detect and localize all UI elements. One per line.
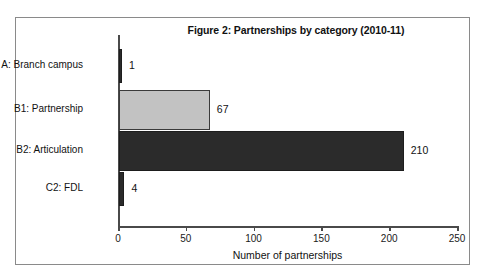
x-tick-label: 150 [313,233,330,244]
bar-row[interactable]: 1 [119,49,172,83]
bar-value-label: 1 [129,59,135,71]
bar-value-label: 67 [217,103,229,115]
x-tick-label: 50 [180,233,191,244]
x-tick-mark [254,226,256,231]
bar-3[interactable] [119,131,404,171]
bar-2[interactable] [119,90,210,130]
x-tick-mark [389,226,391,231]
category-label: C2: FDL [46,182,83,193]
bar-row[interactable]: 210 [119,131,454,171]
category-label: A: Branch campus [1,59,83,70]
bar-value-label: 210 [411,144,429,156]
category-label: B2: Articulation [16,144,83,155]
plot-area: 050100150200250 1672104 A: Branch campus… [118,35,457,226]
bar-4[interactable] [119,172,124,206]
x-tick-label: 100 [245,233,262,244]
x-tick-label: 200 [381,233,398,244]
x-tick-label: 0 [115,233,121,244]
x-tick-mark [457,226,459,231]
x-tick-mark [321,226,323,231]
bar-value-label: 4 [131,182,137,194]
x-tick-label: 250 [449,233,466,244]
x-tick-mark [186,226,188,231]
x-tick-mark [118,226,120,231]
category-label: B1: Partnership [14,103,83,114]
bar-row[interactable]: 4 [119,172,174,206]
x-axis-line [118,226,457,228]
x-axis-title: Number of partnerships [118,249,457,261]
figure-frame: Figure 2: Partnerships by category (2010… [15,17,470,265]
bar-row[interactable]: 67 [119,90,260,130]
bar-1[interactable] [119,49,122,83]
